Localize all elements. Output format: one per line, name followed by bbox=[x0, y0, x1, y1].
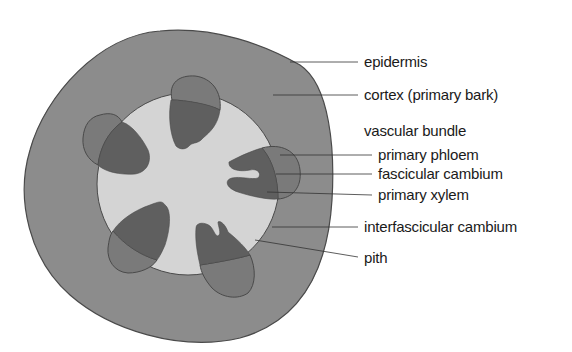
label-fascicular-cambium: fascicular cambium bbox=[378, 165, 503, 183]
label-pith: pith bbox=[364, 249, 387, 267]
label-epidermis: epidermis bbox=[364, 53, 427, 71]
label-cortex: cortex (primary bark) bbox=[364, 86, 498, 104]
label-interfascicular-cambium: interfascicular cambium bbox=[364, 218, 517, 236]
label-primary-phloem: primary phloem bbox=[378, 146, 479, 164]
label-vascular-bundle: vascular bundle bbox=[364, 122, 466, 140]
label-primary-xylem: primary xylem bbox=[378, 186, 469, 204]
